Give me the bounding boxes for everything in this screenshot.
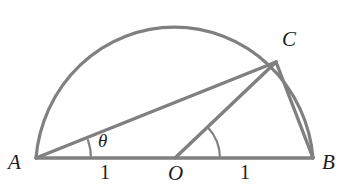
angle-arc-at-o [208,127,220,158]
center-label-o: O [168,163,183,184]
angle-arc-at-a [88,140,91,158]
segment-radius-oc [175,62,276,158]
segment-chord-ac [36,62,276,158]
angle-label-theta: θ [98,131,107,150]
segment-chord-cb [276,62,313,158]
vertex-label-a: A [8,152,21,173]
vertex-label-c: C [282,29,296,50]
vertex-label-b: B [322,152,335,173]
geometry-diagram: A B C O θ 1 1 [0,0,349,191]
semicircle-arc [36,27,313,158]
length-label-ob: 1 [240,162,250,182]
length-label-ao: 1 [100,162,110,182]
